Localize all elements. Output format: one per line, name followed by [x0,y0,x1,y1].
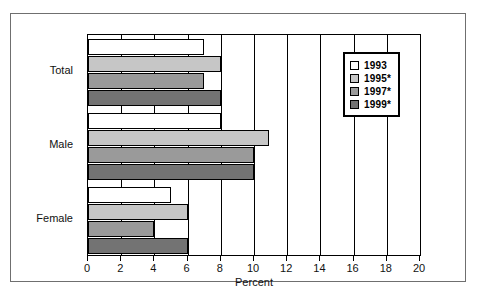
legend-label: 1997* [364,86,391,97]
legend-swatch-icon [350,100,359,109]
bar-total-1999 [88,90,221,106]
bar-male-1995 [88,130,269,146]
bar-row [88,221,420,237]
bar-row [88,187,420,203]
bar-row [88,204,420,220]
bar-female-1993 [88,187,171,203]
bar-row [88,164,420,180]
y-axis-category-labels: TotalMaleFemale [11,34,81,256]
x-tick [87,256,88,261]
legend-item-1995[interactable]: 1995* [350,72,391,84]
y-label-total: Total [50,64,73,76]
x-tick [386,256,387,261]
x-tick-label: 4 [150,262,156,274]
x-tick [319,256,320,261]
bar-group-female [88,187,420,255]
x-tick [253,256,254,261]
legend-label: 1999* [364,99,391,110]
legend-item-1993[interactable]: 1993 [350,59,391,71]
legend-label: 1995* [364,73,391,84]
legend-swatch-icon [350,61,359,70]
x-tick-label: 12 [280,262,292,274]
legend-swatch-icon [350,74,359,83]
x-tick-label: 10 [247,262,259,274]
bar-female-1995 [88,204,188,220]
bar-female-1999 [88,238,188,254]
bar-row [88,147,420,163]
bar-total-1997 [88,73,204,89]
x-axis-title: Percent [87,276,421,288]
legend-swatch-icon [350,87,359,96]
legend-item-1997[interactable]: 1997* [350,85,391,97]
x-tick-label: 16 [346,262,358,274]
gridline [420,35,421,255]
x-tick-label: 14 [313,262,325,274]
bar-row [88,238,420,254]
bar-male-1993 [88,113,221,129]
x-tick [353,256,354,261]
figure-frame: TotalMaleFemale 02468101214161820 Percen… [10,13,466,282]
bar-row [88,130,420,146]
x-tick [187,256,188,261]
x-tick-label: 6 [184,262,190,274]
bar-male-1999 [88,164,254,180]
bar-male-1997 [88,147,254,163]
x-tick-label: 18 [380,262,392,274]
legend-item-1999[interactable]: 1999* [350,98,391,110]
bar-group-male [88,113,420,181]
bar-total-1993 [88,39,204,55]
legend-label: 1993 [364,60,387,71]
bar-total-1995 [88,56,221,72]
chart-legend: 19931995*1997*1999* [343,52,400,117]
x-tick-label: 8 [217,262,223,274]
x-tick [153,256,154,261]
x-tick [419,256,420,261]
x-tick [220,256,221,261]
x-tick-label: 20 [413,262,425,274]
bar-female-1997 [88,221,154,237]
y-label-male: Male [49,138,73,150]
x-tick [286,256,287,261]
x-tick [120,256,121,261]
x-tick-label: 0 [84,262,90,274]
x-tick-label: 2 [117,262,123,274]
y-label-female: Female [36,212,73,224]
